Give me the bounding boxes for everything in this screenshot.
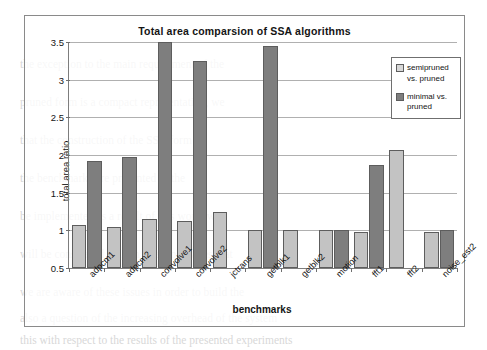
bar-adpcm2-minimal — [122, 157, 137, 268]
x-tick-mark — [386, 268, 387, 272]
y-tick-label: 3.5 — [51, 37, 64, 48]
legend-label-line1: semipruned — [407, 63, 449, 72]
bar-adpcm1-minimal — [87, 161, 102, 268]
legend-label-semipruned: semipruned vs. pruned — [407, 63, 449, 85]
legend-label-minimal: minimal vs. pruned — [407, 92, 447, 114]
bar-group — [175, 42, 210, 268]
bar-group — [210, 42, 245, 268]
legend-item-semipruned: semipruned vs. pruned — [396, 63, 456, 85]
chart-legend: semipruned vs. pruned minimal vs. pruned — [391, 57, 461, 119]
y-tick-label: 2.5 — [51, 112, 64, 123]
y-tick-label: 1.5 — [51, 187, 64, 198]
minimal-swatch-icon — [396, 93, 404, 101]
y-tick-label: 3 — [59, 74, 64, 85]
legend-label-line2: vs. pruned — [407, 74, 444, 83]
x-tick-mark — [69, 268, 70, 272]
semipruned-swatch-icon — [396, 64, 404, 72]
bar-fft2-semipruned — [389, 150, 404, 268]
bar-group — [316, 42, 351, 268]
x-axis-title: benchmarks — [68, 304, 456, 315]
bar-getblk1-minimal — [263, 46, 278, 268]
bar-group — [245, 42, 280, 268]
chart-title: Total area comparsion of SSA algorithms — [25, 25, 464, 37]
y-tick-label: 2 — [59, 150, 64, 161]
bar-adpcm1-semipruned — [72, 225, 87, 268]
bar-noise_est2-semipruned — [424, 232, 439, 268]
bg-text-line: this with respect to the results of the … — [20, 334, 292, 346]
y-tick-label: 1 — [59, 225, 64, 236]
bar-group — [104, 42, 139, 268]
bar-group — [140, 42, 175, 268]
bar-convolve2-minimal — [193, 61, 208, 268]
legend-label-line1: minimal vs. — [407, 92, 447, 101]
bar-group — [351, 42, 386, 268]
x-tick-mark — [422, 268, 423, 272]
y-tick-label: 0.5 — [51, 263, 64, 274]
legend-item-minimal: minimal vs. pruned — [396, 92, 456, 114]
chart-frame: Total area comparsion of SSA algorithms … — [24, 15, 465, 327]
bar-fft1-minimal — [369, 165, 384, 268]
bar-convolve1-minimal — [158, 42, 173, 268]
bar-group — [69, 42, 104, 268]
bar-group — [281, 42, 316, 268]
legend-label-line2: pruned — [407, 102, 432, 111]
